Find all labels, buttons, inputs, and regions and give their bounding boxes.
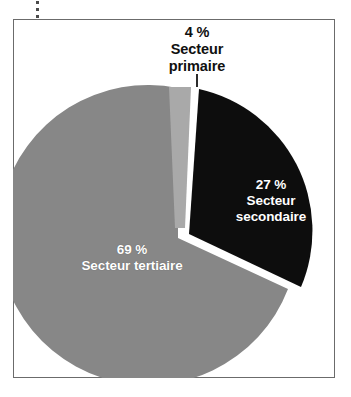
slice-label-secondaire-line2: secondaire [210,209,332,225]
dot-mark [36,8,39,11]
slice-label-tertiaire-percent: 69 % [57,242,207,258]
slice-label-primaire-line1: Secteur [139,41,255,58]
leader-line-primaire [196,74,198,87]
dot-mark [36,1,39,4]
slice-label-primaire-line2: primaire [139,58,255,75]
slice-label-tertiaire: 69 % Secteur tertiaire [57,242,207,274]
pie-chart-figure: 27 % Secteur secondaire 69 % Secteur ter… [0,0,351,397]
slice-label-tertiaire-line1: Secteur tertiaire [57,258,207,274]
dotted-marker-icon [36,1,40,18]
slice-label-secondaire: 27 % Secteur secondaire [210,177,332,225]
slice-label-primaire: 4 % Secteur primaire [139,24,255,75]
slice-label-secondaire-percent: 27 % [210,177,332,193]
slice-label-primaire-percent: 4 % [139,24,255,41]
slice-label-secondaire-line1: Secteur [210,193,332,209]
dot-mark [36,15,39,18]
